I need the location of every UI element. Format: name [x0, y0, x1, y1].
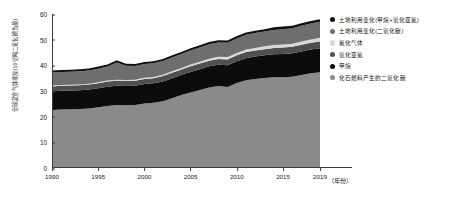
legend-item-2[interactable]: 氟化气体 — [330, 37, 462, 49]
x-tick-2010: 2010 — [230, 173, 244, 180]
x-axis-line — [52, 167, 352, 168]
x-axis-title: （年份） — [328, 176, 352, 185]
legend-marker-icon — [330, 40, 335, 45]
legend-item-label: 土地利用变化(二氧化碳) — [339, 27, 404, 35]
legend-item-3[interactable]: 氧化亚氮 — [330, 49, 462, 61]
emissions-stacked-area-figure: 全球温室气体排放(10亿吨二氧化碳当量) 0102030405060 19901… — [0, 0, 465, 203]
x-tick-2015: 2015 — [276, 173, 290, 180]
x-tick-1995: 1995 — [91, 173, 105, 180]
area-series-svg — [52, 14, 320, 168]
y-tick-10: 10 — [40, 139, 52, 146]
stacked-area-plot — [52, 14, 320, 168]
plot-region: 0102030405060 19901995200020052010201520… — [52, 14, 320, 168]
x-tick-2005: 2005 — [184, 173, 198, 180]
y-tick-60: 60 — [40, 11, 52, 18]
legend-item-label: 化石燃料产生的二氧化碳 — [339, 74, 406, 82]
legend-item-label: 氟化气体 — [339, 39, 363, 47]
y-tick-0: 0 — [43, 165, 52, 172]
x-tick-2000: 2000 — [138, 173, 152, 180]
y-tick-20: 20 — [40, 113, 52, 120]
legend-marker-icon — [330, 52, 335, 57]
legend-marker-icon — [330, 29, 335, 34]
legend-item-0[interactable]: 土地利用变化(甲烷+氧化亚氮) — [330, 14, 462, 26]
legend-item-4[interactable]: 甲烷 — [330, 60, 462, 72]
x-tick-1990: 1990 — [45, 173, 59, 180]
y-tick-50: 50 — [40, 36, 52, 43]
y-tick-30: 30 — [40, 88, 52, 95]
legend-item-5[interactable]: 化石燃料产生的二氧化碳 — [330, 72, 462, 84]
legend-item-label: 氧化亚氮 — [339, 51, 363, 59]
legend-item-label: 土地利用变化(甲烷+氧化亚氮) — [339, 16, 420, 24]
legend-marker-icon — [330, 17, 335, 22]
legend-item-label: 甲烷 — [339, 62, 351, 70]
x-tick-2019: 2019 — [313, 173, 327, 180]
legend-item-1[interactable]: 土地利用变化(二氧化碳) — [330, 26, 462, 38]
y-tick-40: 40 — [40, 62, 52, 69]
chart-legend: 土地利用变化(甲烷+氧化亚氮)土地利用变化(二氧化碳)氟化气体氧化亚氮甲烷化石燃… — [330, 14, 462, 84]
legend-marker-icon — [330, 75, 335, 80]
y-axis-title: 全球温室气体排放(10亿吨二氧化碳当量) — [11, 0, 18, 136]
legend-marker-icon — [330, 64, 335, 69]
